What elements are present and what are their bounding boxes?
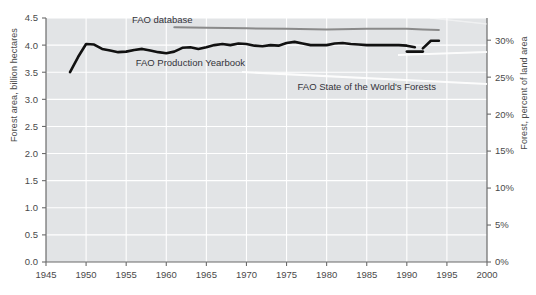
svg-text:5%: 5% (495, 219, 509, 230)
svg-text:25%: 25% (495, 72, 515, 83)
svg-text:1985: 1985 (356, 269, 377, 280)
svg-text:1955: 1955 (116, 269, 137, 280)
annotation-label: FAO State of the World's Forests (298, 81, 437, 92)
svg-text:3.0: 3.0 (25, 94, 38, 105)
annotation-label: FAO database (132, 14, 193, 25)
svg-text:10%: 10% (495, 182, 515, 193)
y-axis-right-label: Forest, percent of land area (519, 0, 529, 193)
svg-text:1965: 1965 (196, 269, 217, 280)
svg-text:4.5: 4.5 (25, 12, 38, 23)
svg-text:1945: 1945 (35, 269, 56, 280)
svg-text:2.0: 2.0 (25, 148, 38, 159)
svg-text:1995: 1995 (436, 269, 457, 280)
chart-figure: 1945195019551960196519701975198019851990… (0, 0, 536, 295)
svg-text:1990: 1990 (396, 269, 417, 280)
svg-text:3.5: 3.5 (25, 67, 38, 78)
svg-text:1950: 1950 (76, 269, 97, 280)
svg-text:4.0: 4.0 (25, 40, 38, 51)
svg-text:2.5: 2.5 (25, 121, 38, 132)
svg-text:1975: 1975 (276, 269, 297, 280)
svg-text:0%: 0% (495, 256, 509, 267)
annotation-label: FAO Production Yearbook (136, 57, 246, 68)
svg-text:30%: 30% (495, 35, 515, 46)
svg-text:1970: 1970 (236, 269, 257, 280)
svg-text:0.5: 0.5 (25, 229, 38, 240)
svg-text:1.5: 1.5 (25, 175, 38, 186)
svg-text:0.0: 0.0 (25, 256, 38, 267)
y-axis-left-label: Forest area, billion hectares (9, 0, 19, 185)
svg-text:20%: 20% (495, 109, 515, 120)
svg-text:1960: 1960 (156, 269, 177, 280)
svg-text:1980: 1980 (316, 269, 337, 280)
svg-text:1.0: 1.0 (25, 202, 38, 213)
svg-text:15%: 15% (495, 145, 515, 156)
svg-text:2000: 2000 (476, 269, 497, 280)
